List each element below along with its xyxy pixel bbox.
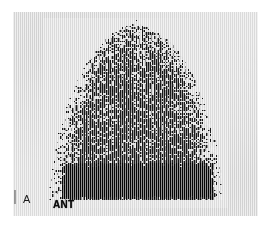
scintigram-figure: A ANT <box>0 0 270 228</box>
uptake-region <box>43 18 228 208</box>
speckle-canvas <box>43 18 228 208</box>
fiducial-tick-mark <box>14 190 16 204</box>
panel-letter-label: A <box>23 194 31 205</box>
speckle-canvas-holder <box>43 18 228 208</box>
film-panel: A ANT <box>13 12 258 216</box>
view-orientation-label: ANT <box>53 200 74 210</box>
